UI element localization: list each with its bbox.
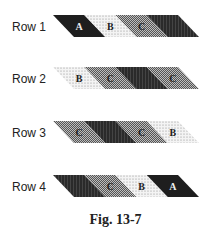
segment-letter: C	[138, 127, 145, 138]
band-row-2: BCC	[0, 67, 211, 90]
segment-letter: B	[138, 181, 145, 192]
segment-letter: C	[169, 73, 176, 84]
segment-letter: C	[107, 73, 114, 84]
segment-letter: B	[107, 21, 114, 32]
segment-letter: B	[170, 127, 177, 138]
band-row-1: ABC	[0, 15, 211, 38]
segment-letter: B	[76, 73, 83, 84]
segment-letter: A	[169, 181, 177, 192]
figure-caption: Fig. 13-7	[0, 212, 211, 228]
band-row-4: CBA	[0, 175, 211, 198]
segment-letter: A	[76, 21, 84, 32]
segment-letter: C	[76, 127, 83, 138]
segment-letter: C	[107, 181, 114, 192]
band-row-3: CCB	[0, 121, 211, 144]
segment-letter: C	[138, 21, 145, 32]
